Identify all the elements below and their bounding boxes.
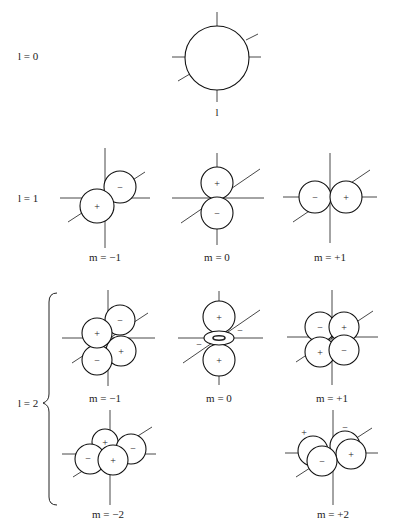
- sign: −: [94, 355, 100, 366]
- sign: +: [216, 355, 222, 366]
- sign: −: [312, 192, 318, 203]
- caption-d-m-0: m = 0: [206, 392, 232, 404]
- sign: −: [319, 456, 325, 467]
- sign: +: [301, 427, 307, 438]
- caption-s: l: [215, 106, 218, 118]
- sign: −: [85, 453, 91, 464]
- s-orbital: [172, 12, 261, 102]
- d-orbital-m-pos2: + − + −: [285, 410, 378, 505]
- sign: +: [348, 449, 354, 460]
- row-label-l2: l = 2: [18, 397, 38, 409]
- caption-d-m-pos2: m = +2: [317, 508, 349, 520]
- sign: +: [94, 201, 100, 212]
- row-label-l0: l = 0: [18, 50, 39, 62]
- orbital-diagram: l = 0 l l = 1 − + m = −1 + − m = 0: [0, 0, 395, 530]
- d-orbital-m-0: + + − −: [178, 291, 263, 385]
- sign: −: [130, 443, 136, 454]
- caption-p-m-pos1: m = +1: [314, 251, 346, 263]
- d-orbital-m-pos1: − + + −: [287, 290, 378, 385]
- p-orbital-m-neg1: − +: [60, 148, 150, 248]
- sign: −: [214, 208, 220, 219]
- p-orbital-m-pos1: − +: [283, 153, 377, 243]
- d-orbital-m-neg1: − + − +: [62, 290, 155, 386]
- caption-d-m-pos1: m = +1: [316, 392, 348, 404]
- sign: −: [342, 422, 348, 433]
- sign: +: [214, 178, 220, 189]
- sign: −: [196, 339, 202, 350]
- sign: −: [237, 325, 243, 336]
- sign: +: [317, 347, 323, 358]
- sign: +: [110, 455, 116, 466]
- sign: −: [117, 182, 123, 193]
- sign: +: [118, 346, 124, 357]
- sign: −: [317, 322, 323, 333]
- sign: +: [341, 322, 347, 333]
- p-orbital-m-0: + −: [172, 153, 264, 245]
- caption-d-m-neg2: m = −2: [92, 508, 124, 520]
- d-orbital-m-neg2: + − − +: [62, 410, 156, 505]
- sign: +: [94, 328, 100, 339]
- sign: +: [343, 192, 349, 203]
- l2-brace: [43, 293, 57, 505]
- sign: +: [216, 312, 222, 323]
- caption-p-m-0: m = 0: [204, 251, 230, 263]
- sign: −: [117, 315, 123, 326]
- caption-d-m-neg1: m = −1: [89, 392, 121, 404]
- sign: −: [341, 345, 347, 356]
- row-label-l1: l = 1: [18, 192, 38, 204]
- caption-p-m-neg1: m = −1: [89, 251, 121, 263]
